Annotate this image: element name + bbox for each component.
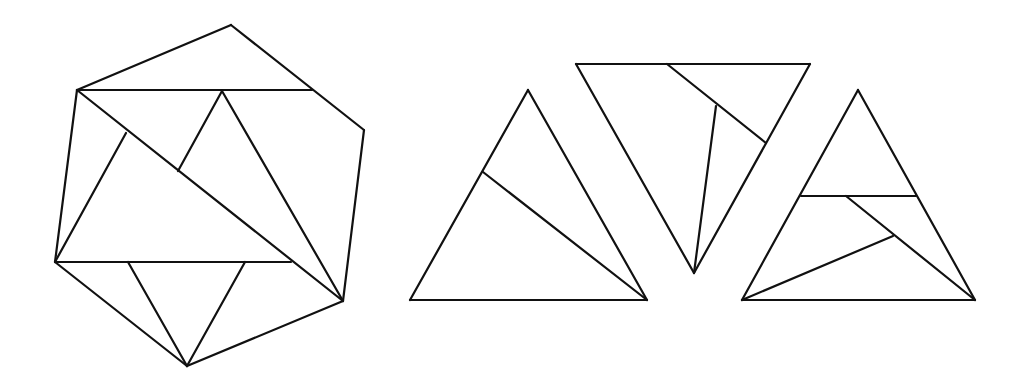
edge-line — [187, 301, 343, 366]
edge-line — [483, 172, 647, 300]
edge-line — [410, 90, 528, 300]
edge-line — [576, 64, 694, 273]
edge-line — [694, 64, 810, 273]
edge-line — [694, 106, 716, 273]
hexagon-dissection — [55, 25, 364, 366]
edge-line — [231, 25, 364, 130]
edge-line — [77, 90, 343, 301]
edge-line — [187, 262, 245, 366]
edge-line — [343, 130, 364, 301]
edge-line — [178, 91, 222, 171]
edge-line — [77, 25, 231, 90]
edge-line — [55, 90, 77, 262]
edge-line — [55, 262, 187, 366]
edge-line — [128, 262, 187, 366]
edge-line — [528, 90, 647, 300]
triangle-left — [410, 90, 647, 300]
edge-line — [55, 133, 126, 262]
edge-line — [667, 64, 766, 143]
edge-line — [742, 236, 893, 300]
dissection-diagram — [0, 0, 1024, 389]
